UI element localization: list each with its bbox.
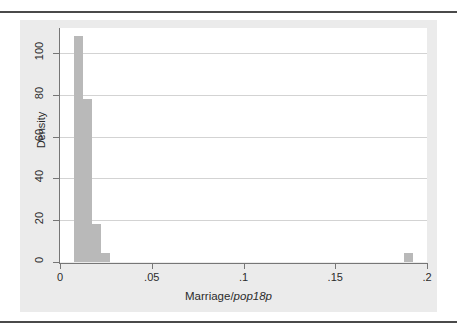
plot-area (60, 28, 427, 262)
histogram-bar (92, 224, 101, 262)
gridline-y-80 (60, 95, 427, 96)
x-tick-label: .15 (320, 271, 350, 283)
y-tick-label: 60 (33, 122, 45, 148)
x-axis-title-prefix: Marriage/ (185, 290, 234, 302)
y-tick-mark (53, 178, 59, 179)
x-tick-mark (60, 264, 61, 269)
y-tick-label: 100 (33, 38, 45, 64)
x-tick-label: .2 (412, 271, 442, 283)
histogram-figure: Density 020406080100 0.05.1.15.2 Marriag… (20, 20, 437, 312)
page-rule-top (0, 11, 457, 13)
histogram-bar (404, 253, 413, 262)
histogram-bar (83, 99, 92, 262)
y-tick-mark (53, 137, 59, 138)
gridline-y-40 (60, 178, 427, 179)
y-tick-mark (53, 262, 59, 263)
y-tick-label: 80 (33, 80, 45, 106)
y-tick-label: 40 (33, 163, 45, 189)
y-tick-mark (53, 220, 59, 221)
y-tick-label: 20 (33, 205, 45, 231)
page-rule-bottom (0, 321, 457, 323)
gridline-y-100 (60, 53, 427, 54)
histogram-bar (101, 253, 110, 262)
y-tick-mark (53, 53, 59, 54)
x-tick-mark (152, 264, 153, 269)
histogram-bar (74, 36, 83, 262)
gridline-y-60 (60, 137, 427, 138)
x-tick-label: .05 (137, 271, 167, 283)
x-tick-mark (244, 264, 245, 269)
x-tick-label: .1 (229, 271, 259, 283)
x-tick-mark (427, 264, 428, 269)
y-tick-mark (53, 95, 59, 96)
x-tick-label: 0 (45, 271, 75, 283)
x-axis-title-italic: pop18p (234, 290, 272, 302)
y-tick-label: 0 (33, 247, 45, 273)
gridline-y-20 (60, 220, 427, 221)
x-axis-title: Marriage/pop18p (20, 290, 437, 302)
x-tick-mark (335, 264, 336, 269)
